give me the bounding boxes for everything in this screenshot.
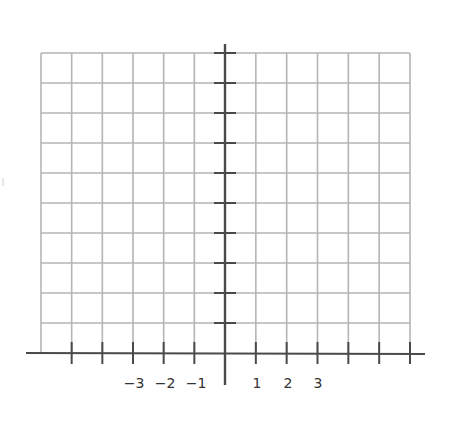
x-tick-label: 1 (253, 376, 262, 390)
x-tick-label: −3 (124, 376, 145, 390)
x-tick-label: 2 (284, 376, 293, 390)
x-tick-label: 3 (314, 376, 323, 390)
x-tick-label: −2 (155, 376, 176, 390)
coordinate-grid (0, 0, 451, 429)
x-tick-label: −1 (186, 376, 207, 390)
